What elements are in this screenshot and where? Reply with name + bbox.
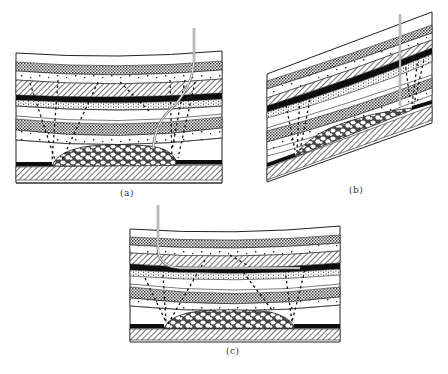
- panel-a-label: (a): [120, 188, 134, 198]
- panel-a: [16, 28, 222, 183]
- panel-c: [130, 205, 340, 342]
- panel-b-label: (b): [349, 185, 363, 195]
- panel-b: [267, 12, 432, 182]
- figure-canvas: [0, 0, 448, 374]
- panel-c-label: (c): [226, 346, 240, 356]
